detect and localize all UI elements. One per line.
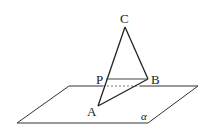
- label-B: B: [151, 72, 160, 87]
- plane-alpha-edges: [17, 86, 198, 123]
- label-A: A: [87, 104, 97, 119]
- label-alpha: α: [141, 110, 147, 122]
- label-C: C: [120, 11, 129, 26]
- segment-CB: [125, 27, 148, 79]
- geometry-diagram: C B A P α: [0, 0, 211, 131]
- diagram-canvas: C B A P α: [0, 0, 211, 131]
- label-P: P: [96, 72, 103, 87]
